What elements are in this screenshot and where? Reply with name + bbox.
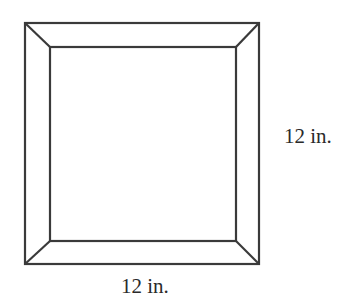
right-side-length-label: 12 in. xyxy=(284,124,332,149)
bevel-top-left xyxy=(25,23,50,47)
inner-square xyxy=(50,47,236,241)
frame-diagram xyxy=(0,0,350,306)
outer-square xyxy=(25,23,259,264)
bevel-bottom-left xyxy=(25,241,50,264)
bottom-side-length-label: 12 in. xyxy=(121,274,169,299)
bevel-top-right xyxy=(236,23,259,47)
bevel-bottom-right xyxy=(236,241,259,264)
